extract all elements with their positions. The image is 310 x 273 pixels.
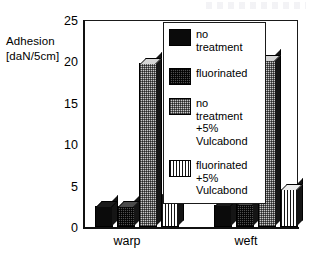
y-tick-15: 15 [52,97,78,111]
legend-label-fluorinated-vulcabond: fluorinated +5% Vulcabond [196,159,248,197]
x-label-warp: warp [92,234,162,248]
bar-weft-series-1 [214,205,232,227]
legend-item-fluorinated-vulcabond: fluorinated +5% Vulcabond [169,159,261,197]
legend-swatch-fluorinated [169,68,191,85]
y-tick-25: 25 [52,14,78,28]
y-tick-20: 20 [52,55,78,69]
bar-weft-series-2 [236,204,254,227]
legend-item-no-treatment: no treatment [169,28,261,53]
bar-warp-series-2 [117,206,135,227]
legend-label-no-treatment-vulcabond: no treatment +5% Vulcabond [196,97,248,147]
bar-warp-series-3 [139,63,157,227]
scan-artifact [206,2,306,9]
y-tick-5: 5 [52,180,78,194]
chart-root: Adhesion [daN/5cm] 25 20 15 10 5 0 warp … [0,0,310,273]
legend-label-no-treatment: no treatment [196,28,242,53]
y-tick-10: 10 [52,138,78,152]
bar-front-face [140,64,156,226]
x-label-weft: weft [211,234,281,248]
bar-weft-series-4 [280,189,298,227]
bar-front-face [118,207,134,226]
y-tick-0: 0 [52,221,78,235]
legend-label-fluorinated: fluorinated [196,67,247,80]
bar-front-face [237,205,253,226]
bar-warp-series-1 [95,206,113,227]
y-axis-line [83,20,85,229]
x-axis-line [83,227,299,229]
legend-item-fluorinated: fluorinated [169,67,261,85]
legend-swatch-no-treatment-vulcabond [169,98,191,115]
bar-front-face [281,190,297,226]
legend-swatch-no-treatment [169,29,191,46]
y-tick-labels: 25 20 15 10 5 0 [0,0,78,273]
bar-front-face [215,206,231,226]
chart-legend: no treatment fluorinated no treatment +5… [163,22,266,204]
legend-item-no-treatment-vulcabond: no treatment +5% Vulcabond [169,97,261,147]
bar-front-face [96,207,112,226]
legend-swatch-fluorinated-vulcabond [169,160,191,177]
